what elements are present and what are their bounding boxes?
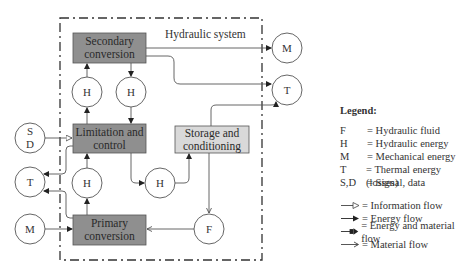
legend-flow-desc: = Material flow bbox=[362, 238, 428, 251]
legend-row-t: T = Thermal energy (losses) bbox=[340, 163, 472, 176]
label-m-left: M bbox=[15, 214, 45, 244]
legend-key: F bbox=[340, 124, 367, 137]
label-h3: H bbox=[72, 168, 102, 198]
label-sd: S D bbox=[15, 123, 45, 153]
label-sd-d: D bbox=[26, 138, 34, 151]
legend-title: Legend: bbox=[340, 105, 472, 116]
label-f: F bbox=[194, 214, 224, 244]
material-flow-arrow-icon bbox=[340, 238, 362, 251]
label-h2: H bbox=[116, 77, 146, 107]
legend-key: H bbox=[340, 137, 367, 150]
label-storage-conditioning: Storage and conditioning bbox=[175, 126, 249, 153]
flow-secondary-t-right bbox=[146, 56, 271, 84]
label-secondary-conversion: Secondary conversion bbox=[73, 33, 146, 63]
legend-key: S,D bbox=[340, 176, 367, 189]
flow-primary-t bbox=[44, 191, 73, 218]
legend-flow-energy-material: = Energy and material flow bbox=[340, 225, 472, 238]
flow-limitation-t bbox=[44, 146, 73, 174]
label-h4: H bbox=[145, 168, 175, 198]
label-limitation-control: Limitation and control bbox=[73, 124, 146, 153]
system-title: Hydraulic system bbox=[165, 28, 246, 40]
label-sd-s: S bbox=[27, 125, 33, 138]
legend-desc: = Signal, data bbox=[367, 176, 425, 189]
legend-flow-information: = Information flow bbox=[340, 199, 472, 212]
flow-limitation-h4 bbox=[131, 153, 144, 183]
flow-h4-storage bbox=[175, 154, 189, 183]
information-flow-arrow-icon bbox=[340, 199, 362, 212]
legend-desc: = Hydraulic fluid bbox=[367, 124, 440, 137]
legend-flows: = Information flow = Energy flow = Energ… bbox=[340, 199, 472, 251]
energy-flow-arrow-icon bbox=[340, 212, 362, 225]
label-primary-conversion: Primary conversion bbox=[73, 215, 146, 245]
legend-row-m: M = Mechanical energy bbox=[340, 150, 472, 163]
flow-storage-t-right bbox=[211, 102, 276, 126]
label-t-right: T bbox=[272, 75, 302, 105]
legend-desc: = Thermal energy (losses) bbox=[366, 163, 472, 176]
legend-row-h: H = Hydraulic energy bbox=[340, 137, 472, 150]
legend-desc: = Mechanical energy bbox=[367, 150, 456, 163]
label-m-right: M bbox=[272, 33, 302, 63]
legend-key: T bbox=[340, 163, 366, 176]
legend-row-sd: S,D = Signal, data bbox=[340, 176, 472, 189]
legend-row-f: F = Hydraulic fluid bbox=[340, 124, 472, 137]
label-t-left: T bbox=[15, 167, 45, 197]
legend-key: M bbox=[340, 150, 367, 163]
label-h1: H bbox=[72, 77, 102, 107]
energy-material-flow-arrow-icon bbox=[340, 225, 361, 238]
legend-desc: = Hydraulic energy bbox=[367, 137, 449, 150]
legend-flow-desc: = Information flow bbox=[362, 199, 443, 212]
legend: Legend: F = Hydraulic fluid H = Hydrauli… bbox=[340, 105, 472, 251]
